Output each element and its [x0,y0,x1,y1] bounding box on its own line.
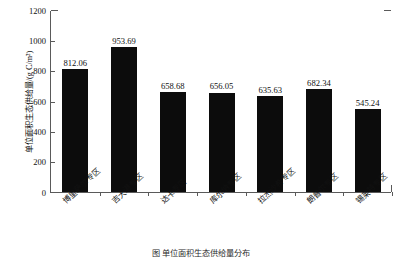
bar-chart-figure: 单位面积生态供给量/(g C/m²) 020040060080010001200… [0,0,402,258]
x-axis-tick-mark [343,192,344,196]
y-axis-tick-mark [51,102,55,103]
axis-cap-right-bottom [391,185,392,192]
bar-value-label: 635.63 [249,86,291,95]
y-axis-tick-labels: 020040060080010001200 [16,0,46,258]
axis-cap-top-left [51,10,58,11]
x-axis-tick-mark [197,192,198,196]
x-axis-tick-mark [246,192,247,196]
y-axis-tick-label: 0 [16,189,46,198]
figure-caption: 图 单位面积生态供给量分布 [0,246,402,258]
axis-cap-left-bottom [50,185,51,192]
x-axis-tick-mark [148,192,149,196]
axis-cap-top-right [384,10,391,11]
y-axis-tick-mark [51,41,55,42]
plot-area: 812.06953.69658.68656.05635.63682.34545.… [50,11,391,193]
y-axis-tick-label: 600 [16,98,46,107]
y-axis-tick-label: 1000 [16,37,46,46]
y-axis-tick-mark [51,132,55,133]
y-axis-tick-label: 400 [16,128,46,137]
bar-value-label: 953.69 [103,37,145,46]
y-axis-tick-label: 1200 [16,7,46,16]
y-axis-tick-label: 800 [16,67,46,76]
bar-value-label: 812.06 [54,59,96,68]
bar [62,69,88,192]
y-axis-tick-mark [51,71,55,72]
x-axis-tick-mark [392,192,393,196]
bar-value-label: 545.24 [347,99,389,108]
x-axis-tick-mark [295,192,296,196]
bar-value-label: 658.68 [152,82,194,91]
x-axis-tick-mark [100,192,101,196]
bar [111,47,137,192]
bar-value-label: 656.05 [201,82,243,91]
y-axis-tick-label: 200 [16,158,46,167]
y-axis-tick-mark [51,162,55,163]
bar-value-label: 682.34 [298,79,340,88]
